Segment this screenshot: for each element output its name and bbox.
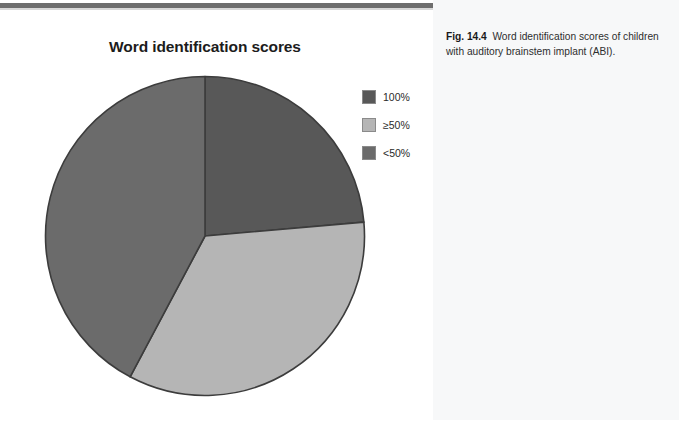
legend-label-ge50: ≥50% (383, 119, 410, 131)
legend-swatch-icon-lt50 (362, 146, 376, 160)
pie-chart-svg (44, 75, 366, 397)
legend-item-ge50: ≥50% (362, 114, 432, 135)
legend-label-lt50: <50% (383, 147, 410, 159)
legend-swatch-icon-100 (362, 90, 376, 104)
figure-panel: Word identification scores 100% ≥50% <50… (0, 12, 433, 420)
chart-legend: 100% ≥50% <50% (362, 86, 432, 170)
chart-title: Word identification scores (0, 38, 410, 56)
pie-chart (44, 75, 366, 397)
legend-item-lt50: <50% (362, 142, 432, 163)
figure-caption: Fig. 14.4 Word identification scores of … (446, 30, 668, 59)
legend-label-100: 100% (383, 91, 410, 103)
figure-caption-label: Fig. 14.4 (446, 31, 487, 42)
caption-panel: Fig. 14.4 Word identification scores of … (433, 0, 679, 420)
pie-slice-group (46, 77, 365, 396)
legend-swatch-icon-ge50 (362, 118, 376, 132)
legend-item-100: 100% (362, 86, 432, 107)
pie-slice-100 (205, 77, 364, 237)
